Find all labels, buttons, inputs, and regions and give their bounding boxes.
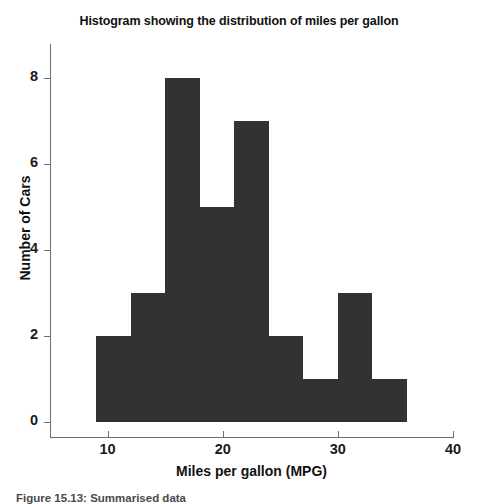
y-tick-mark	[44, 164, 51, 165]
chart-title: Histogram showing the distribution of mi…	[0, 14, 478, 28]
histogram-bar	[165, 78, 200, 422]
y-tick-mark	[44, 336, 51, 337]
x-tick-label: 30	[318, 441, 358, 457]
x-tick-mark	[223, 431, 224, 438]
y-tick-mark	[44, 422, 51, 423]
x-tick-mark	[453, 431, 454, 438]
y-axis-line	[50, 44, 51, 437]
plot-area	[50, 52, 453, 422]
y-tick-mark	[44, 78, 51, 79]
x-tick-label: 20	[203, 441, 243, 457]
histogram-bar	[303, 379, 338, 422]
x-tick-mark	[108, 431, 109, 438]
histogram-bar	[234, 121, 269, 422]
histogram-bar	[131, 293, 166, 422]
y-axis-label: Number of Cars	[17, 118, 33, 338]
y-tick-mark	[44, 250, 51, 251]
y-tick-label: 8	[4, 68, 38, 84]
x-axis-label: Miles per gallon (MPG)	[50, 463, 453, 479]
histogram-bar	[200, 207, 235, 422]
x-tick-mark	[338, 431, 339, 438]
x-tick-label: 40	[433, 441, 473, 457]
x-axis-line	[50, 437, 453, 438]
histogram-bar	[338, 293, 373, 422]
histogram-bar	[96, 336, 131, 422]
x-tick-label: 10	[88, 441, 128, 457]
histogram-bar	[372, 379, 407, 422]
histogram-bar	[269, 336, 304, 422]
y-tick-label: 0	[4, 412, 38, 428]
figure-caption: Figure 15.13: Summarised data	[16, 492, 476, 504]
